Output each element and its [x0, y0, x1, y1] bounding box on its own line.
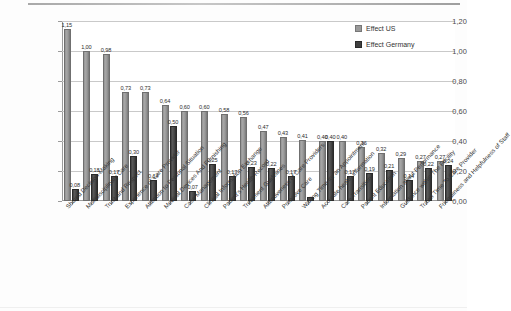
bar-value-label: 0,22	[423, 161, 434, 167]
x-axis-tick-mark	[386, 201, 387, 205]
bar-group: 0,400,40	[319, 21, 339, 201]
bar-value-label: 0,41	[297, 133, 308, 139]
bar-de[interactable]	[229, 176, 236, 202]
bar-value-label: 0,23	[246, 160, 257, 166]
x-axis-tick-mark	[91, 201, 92, 205]
legend-label-us: Effect US	[366, 25, 395, 32]
bar-value-label: 0,40	[325, 134, 336, 140]
bar-value-label: 0,32	[376, 146, 387, 152]
bar-group: 0,640,50	[162, 21, 182, 201]
bar-de[interactable]	[111, 176, 118, 202]
bar-group: 0,430,17	[280, 21, 300, 201]
bar-value-label: 0,40	[337, 134, 348, 140]
bar-us[interactable]	[378, 153, 385, 201]
x-axis-tick-mark	[268, 201, 269, 205]
bar-de[interactable]	[130, 156, 137, 201]
bar-value-label: 0,98	[101, 47, 112, 53]
bar-us[interactable]	[398, 158, 405, 202]
bar-de[interactable]	[268, 168, 275, 201]
x-axis-tick-mark	[150, 201, 151, 205]
chart-legend: Effect US Effect Germany	[355, 22, 460, 54]
bar-value-label: 0,17	[227, 169, 238, 175]
bar-de[interactable]	[366, 173, 373, 202]
legend-swatch-germany-icon	[355, 41, 362, 48]
bar-value-label: 1,15	[62, 22, 73, 28]
bar-us[interactable]	[83, 51, 90, 201]
bar-us[interactable]	[64, 29, 71, 202]
x-axis-tick-mark	[308, 201, 309, 205]
bar-de[interactable]	[248, 167, 255, 202]
bar-value-label: 0,27	[415, 154, 426, 160]
bar-group: 0,730,14	[142, 21, 162, 201]
bar-us[interactable]	[358, 147, 365, 201]
x-axis-tick-mark	[209, 201, 210, 205]
bar-value-label: 0,73	[120, 85, 131, 91]
y-axis-tick-mark	[58, 201, 62, 202]
legend-label-germany: Effect Germany	[366, 41, 415, 48]
bar-value-label: 0,17	[286, 169, 297, 175]
bar-value-label: 0,73	[140, 85, 151, 91]
bar-us[interactable]	[103, 54, 110, 201]
x-axis-tick-mark	[347, 201, 348, 205]
bar-value-label: 0,43	[278, 130, 289, 136]
bar-value-label: 0,60	[199, 104, 210, 110]
bar-value-label: 0,07	[187, 184, 198, 190]
bar-de[interactable]	[91, 174, 98, 201]
bar-value-label: 0,21	[384, 163, 395, 169]
x-axis-tick-mark	[190, 201, 191, 205]
x-axis-tick-mark	[111, 201, 112, 205]
x-axis-tick-mark	[327, 201, 328, 205]
bar-value-label: 0,08	[70, 182, 81, 188]
legend-item-us[interactable]: Effect US	[355, 22, 460, 35]
bar-value-label: 0,25	[207, 157, 218, 163]
bar-de[interactable]	[72, 189, 79, 201]
bar-de[interactable]	[209, 164, 216, 202]
bar-group: 0,980,17	[103, 21, 123, 201]
x-axis-tick-mark	[72, 201, 73, 205]
bar-de[interactable]	[170, 126, 177, 201]
bar-us[interactable]	[142, 92, 149, 202]
legend-swatch-us-icon	[355, 25, 362, 32]
bar-de[interactable]	[425, 168, 432, 201]
x-axis-tick-mark	[445, 201, 446, 205]
bar-de[interactable]	[150, 180, 157, 201]
bar-value-label: 0,47	[258, 124, 269, 130]
bar-us[interactable]	[437, 161, 444, 202]
bar-de[interactable]	[406, 180, 413, 201]
bar-value-label: 0,30	[128, 149, 139, 155]
bar-value-label: 0,60	[179, 104, 190, 110]
bar-value-label: 0,17	[345, 169, 356, 175]
bar-group: 0,41	[299, 21, 319, 201]
bar-value-label: 0,14	[148, 173, 159, 179]
bar-value-label: 0,22	[266, 161, 277, 167]
legend-item-germany[interactable]: Effect Germany	[355, 38, 460, 51]
bar-value-label: 0,17	[109, 169, 120, 175]
bar-de[interactable]	[288, 176, 295, 202]
bar-value-label: 0,14	[404, 173, 415, 179]
bar-de[interactable]	[386, 170, 393, 202]
bar-value-label: 0,36	[356, 140, 367, 146]
x-axis-tick-mark	[426, 201, 427, 205]
bar-de[interactable]	[445, 165, 452, 201]
x-axis-tick-mark	[170, 201, 171, 205]
bar-us[interactable]	[319, 141, 326, 201]
x-axis-tick-mark	[406, 201, 407, 205]
bar-value-label: 0,18	[89, 167, 100, 173]
bar-de[interactable]	[327, 141, 334, 201]
x-axis-tick-mark	[367, 201, 368, 205]
bar-us[interactable]	[122, 92, 129, 202]
bar-us[interactable]	[299, 140, 306, 202]
bar-value-label: 0,19	[364, 166, 375, 172]
bar-value-label: 0,29	[396, 151, 407, 157]
bar-value-label: 0,64	[160, 98, 171, 104]
bar-value-label: 0,50	[168, 119, 179, 125]
bar-group: 0,600,07	[181, 21, 201, 201]
bar-de[interactable]	[347, 176, 354, 202]
bar-value-label: 0,24	[443, 158, 454, 164]
bar-group: 0,470,22	[260, 21, 280, 201]
bar-de[interactable]	[189, 191, 196, 202]
x-axis-tick-mark	[249, 201, 250, 205]
bar-us[interactable]	[221, 114, 228, 201]
